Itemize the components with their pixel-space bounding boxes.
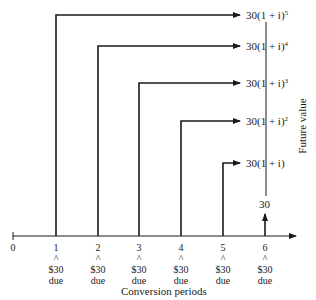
future-value-label-6: 30 xyxy=(259,199,270,210)
y-axis-title: Future value xyxy=(296,96,308,156)
x-axis-title: Conversion periods xyxy=(121,285,207,297)
flow-arrow-3 xyxy=(139,83,240,236)
future-value-label-5: 30(1 + i) xyxy=(246,158,285,169)
future-value-label-4: 30(1 + i)2 xyxy=(246,116,288,127)
period-4: 4^$30due xyxy=(166,242,196,286)
future-value-label-3: 30(1 + i)3 xyxy=(246,78,288,89)
future-value-label-2: 30(1 + i)4 xyxy=(246,41,288,52)
period-1: 1^$30due xyxy=(41,242,71,286)
period-5: 5^$30due xyxy=(208,242,238,286)
period-2: 2^$30due xyxy=(83,242,113,286)
period-6: 6^$30due xyxy=(250,242,280,286)
flow-arrow-4 xyxy=(181,121,240,236)
flow-arrow-1 xyxy=(56,15,240,236)
origin-label: 0 xyxy=(0,242,28,253)
flow-arrow-5 xyxy=(223,163,240,236)
future-value-label-1: 30(1 + i)5 xyxy=(246,10,288,21)
flow-arrow-2 xyxy=(98,46,240,236)
period-3: 3^$30due xyxy=(124,242,154,286)
